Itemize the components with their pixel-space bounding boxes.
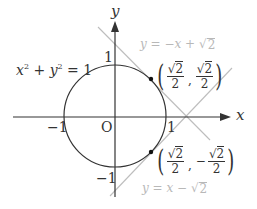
tangent-label-upper: y = −x + √2 — [140, 38, 215, 51]
tick-x-pos-1: 1 — [167, 120, 176, 134]
tick-y-neg-1: −1 — [96, 171, 117, 185]
y-axis-arrow-icon — [111, 21, 119, 32]
close-paren: ) — [228, 146, 235, 176]
point-upper-coordinates: ( √2 2 , √2 2 ) — [155, 61, 225, 91]
sqrt-icon: √ — [199, 38, 207, 50]
eq-x: x — [16, 62, 24, 78]
denominator: 2 — [201, 77, 209, 90]
tangent-label-upper-prefix: y = −x + — [140, 37, 199, 51]
tick-y-pos-1: 1 — [104, 50, 113, 64]
point-upper-x: √2 2 — [167, 63, 184, 90]
radicand: 2 — [217, 146, 225, 161]
minus-sign: − — [196, 155, 206, 167]
radicand: 2 — [175, 61, 183, 76]
sqrt-icon: √ — [197, 62, 205, 76]
diagram-canvas — [0, 0, 257, 209]
eq-rhs: = 1 — [63, 62, 93, 78]
radicand: 2 — [175, 146, 183, 161]
x-axis-label: x — [236, 108, 244, 123]
tangent-point-upper — [149, 77, 153, 81]
denominator: 2 — [213, 162, 221, 175]
point-upper-y: √2 2 — [196, 63, 213, 90]
open-paren: ( — [157, 61, 164, 91]
sqrt-icon: √ — [191, 182, 199, 194]
eq-plus: + — [29, 62, 50, 78]
denominator: 2 — [172, 162, 180, 175]
comma: , — [188, 74, 192, 86]
tangent-label-lower-prefix: y = x − — [142, 181, 191, 195]
sqrt-icon: √ — [209, 147, 217, 161]
y-axis-label: y — [111, 4, 119, 19]
tangent-label-lower: y = x − √2 — [142, 182, 207, 195]
open-paren: ( — [157, 146, 164, 176]
point-lower-y: √2 2 — [208, 148, 225, 175]
tangent-point-lower — [149, 150, 153, 154]
denominator: 2 — [172, 77, 180, 90]
close-paren: ) — [215, 61, 222, 91]
point-lower-coordinates: ( √2 2 , − √2 2 ) — [155, 146, 237, 176]
origin-label: O — [101, 120, 112, 134]
tick-x-neg-1: −1 — [47, 120, 68, 134]
radicand: 2 — [205, 61, 213, 76]
comma: , — [188, 159, 192, 171]
x-axis-arrow-icon — [220, 113, 231, 121]
eq-y: y — [50, 62, 58, 78]
point-lower-x: √2 2 — [167, 148, 184, 175]
circle-equation: x2 + y2 = 1 — [16, 63, 92, 77]
tangent-label-lower-radicand: 2 — [199, 182, 208, 195]
tangent-label-upper-radicand: 2 — [207, 38, 216, 51]
